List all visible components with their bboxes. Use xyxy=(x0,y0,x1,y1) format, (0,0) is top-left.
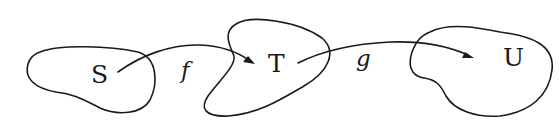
map-g-arrow xyxy=(298,42,468,63)
set-s-label: S xyxy=(91,60,108,89)
set-t-label: T xyxy=(268,49,285,78)
set-t: T xyxy=(204,20,330,116)
set-u-label: U xyxy=(503,43,524,72)
diagram-canvas: S T U f g xyxy=(0,0,559,126)
map-f-label: f xyxy=(179,57,193,83)
set-u: U xyxy=(410,27,552,117)
set-s: S xyxy=(27,47,155,113)
map-g-label: g xyxy=(356,45,371,71)
map-g: g xyxy=(298,42,474,71)
map-f: f xyxy=(118,45,255,83)
set-u-blob xyxy=(410,27,552,117)
function-composition-diagram: S T U f g xyxy=(0,0,559,126)
